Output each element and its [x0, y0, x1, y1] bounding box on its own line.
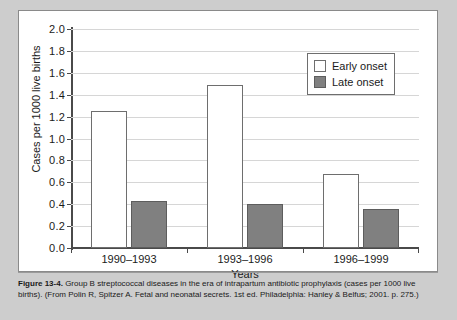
x-axis-separator: [187, 248, 188, 253]
y-axis-tick-label: 0.4: [49, 198, 65, 210]
y-axis-tick-label: 1.4: [49, 89, 65, 101]
gridline: [71, 29, 419, 30]
y-axis-tick-label: 0.6: [49, 176, 65, 188]
y-axis-tick-label: 2.0: [49, 23, 65, 35]
y-axis-tick-label: 0.0: [49, 242, 65, 254]
legend-label-late-onset: Late onset: [332, 76, 383, 88]
y-axis-tick-label: 0.2: [49, 220, 65, 232]
x-axis-separator: [303, 248, 304, 253]
gridline: [71, 51, 419, 52]
y-axis-tick-label: 1.2: [49, 111, 65, 123]
y-axis-tick-mark: [67, 73, 71, 74]
bar-late-onset: [363, 209, 399, 248]
figure-caption: Figure 13-4. Group B streptococcal disea…: [18, 278, 438, 300]
figure-caption-label: Figure 13-4.: [18, 279, 63, 288]
y-axis-tick-mark: [67, 139, 71, 140]
bar-late-onset: [247, 204, 283, 248]
y-axis-tick-label: 0.8: [49, 154, 65, 166]
chart-card: 0.00.20.40.60.81.01.21.41.61.82.0 Cases …: [18, 10, 438, 272]
y-axis-tick-mark: [67, 204, 71, 205]
y-axis-tick-mark: [67, 182, 71, 183]
y-axis-tick-mark: [67, 117, 71, 118]
y-axis-tick-label: 1.0: [49, 133, 65, 145]
x-axis-group-label: 1993–1996: [217, 253, 272, 265]
y-axis-tick-mark: [67, 29, 71, 30]
y-axis-tick-mark: [67, 160, 71, 161]
figure-container: 0.00.20.40.60.81.01.21.41.61.82.0 Cases …: [0, 0, 457, 320]
y-axis-tick-label: 1.6: [49, 67, 65, 79]
legend-item-early-onset: Early onset: [314, 58, 387, 74]
caption-divider: [18, 272, 438, 273]
y-axis-tick-label: 1.8: [49, 45, 65, 57]
y-axis-tick-mark: [67, 248, 71, 249]
bar-early-onset: [91, 111, 127, 248]
bar-late-onset: [131, 201, 167, 248]
bar-early-onset: [323, 174, 359, 248]
y-axis-tick-mark: [67, 226, 71, 227]
legend-label-early-onset: Early onset: [332, 60, 387, 72]
x-axis-end-tick: [418, 248, 419, 253]
legend-item-late-onset: Late onset: [314, 74, 387, 90]
x-axis-end-tick: [71, 248, 72, 253]
x-axis-group-label: 1990–1993: [101, 253, 156, 265]
bar-early-onset: [207, 85, 243, 248]
y-axis-tick-labels: 0.00.20.40.60.81.01.21.41.61.82.0: [19, 29, 65, 248]
y-axis-title: Cases per 1000 live births: [30, 29, 42, 189]
y-axis-tick-mark: [67, 51, 71, 52]
figure-caption-text: Group B streptococcal diseases in the er…: [18, 279, 419, 299]
chart-legend: Early onset Late onset: [307, 53, 395, 95]
x-axis-group-label: 1996–1999: [333, 253, 388, 265]
legend-swatch-late-onset-icon: [314, 76, 326, 88]
y-axis-tick-mark: [67, 95, 71, 96]
legend-swatch-early-onset-icon: [314, 60, 326, 72]
